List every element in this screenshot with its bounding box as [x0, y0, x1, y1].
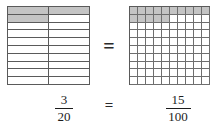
grid-cell-shaded	[49, 7, 90, 15]
grid-cell	[178, 30, 186, 38]
grid-cell	[186, 54, 194, 62]
grid-cell	[154, 46, 162, 54]
grid-cell	[186, 15, 194, 23]
grid-cell	[186, 62, 194, 70]
grid-cell-shaded	[8, 7, 49, 15]
fraction-fifteen-hundredths: 15 100	[153, 93, 203, 123]
grid-cell	[49, 77, 90, 85]
grid-cell	[138, 54, 146, 62]
grid-cell	[162, 30, 170, 38]
grid-cell	[146, 38, 154, 46]
grid-cell	[170, 23, 178, 31]
grid-cell	[49, 23, 90, 31]
grid-cell	[49, 15, 90, 23]
grid-cell	[8, 30, 49, 38]
grid-cell	[194, 15, 202, 23]
grid-cell	[170, 62, 178, 70]
grid-cell	[186, 30, 194, 38]
grid-cell	[154, 38, 162, 46]
equals-sign-fractions: =	[95, 98, 123, 113]
grid-cell-shaded	[130, 15, 138, 23]
grid-cell	[49, 69, 90, 77]
grid-cell	[178, 46, 186, 54]
grid-cell	[170, 46, 178, 54]
grid-cell	[178, 62, 186, 70]
grid-cell-shaded	[170, 7, 178, 15]
equivalent-fractions-figure: = 3 20 = 15 100	[0, 0, 221, 123]
grid-cell-shaded	[194, 7, 202, 15]
grid-cell	[130, 77, 138, 85]
grid-cell	[162, 38, 170, 46]
grid-cell	[162, 46, 170, 54]
grid-cell	[194, 38, 202, 46]
fraction-three-twentieths: 3 20	[43, 93, 85, 123]
grid-cell	[130, 54, 138, 62]
fraction-numerator: 3	[43, 93, 85, 107]
grid-cell	[178, 69, 186, 77]
grid-cell	[146, 30, 154, 38]
grid-cell	[146, 54, 154, 62]
grid-cell-shaded	[154, 15, 162, 23]
grid-cell	[186, 69, 194, 77]
grid-cell-shaded	[130, 7, 138, 15]
grid-cell-shaded	[8, 15, 49, 23]
grid-cell	[178, 77, 186, 85]
grid-cell	[49, 30, 90, 38]
grid-cell	[130, 69, 138, 77]
grid-cell	[138, 77, 146, 85]
grid-cell	[8, 38, 49, 46]
fraction-denominator: 20	[43, 110, 85, 123]
grid-cell	[202, 23, 210, 31]
grid-cell	[202, 38, 210, 46]
grid-cell	[194, 23, 202, 31]
equals-sign-models: =	[95, 36, 123, 56]
grid-cell	[202, 30, 210, 38]
grid-cell	[154, 69, 162, 77]
grid-cell	[130, 23, 138, 31]
grid-cell-shaded	[162, 7, 170, 15]
grid-cell-shaded	[146, 15, 154, 23]
grid-cell	[138, 69, 146, 77]
grid-cell-shaded	[154, 7, 162, 15]
grid-cell-shaded	[202, 7, 210, 15]
grid-cell-shaded	[186, 7, 194, 15]
grid-cell	[186, 38, 194, 46]
grid-cell	[202, 46, 210, 54]
grid-cell	[130, 30, 138, 38]
grid-cell	[146, 62, 154, 70]
grid-cell	[194, 54, 202, 62]
grid-cell-shaded	[138, 7, 146, 15]
grid-cell	[154, 30, 162, 38]
grid-cell	[8, 23, 49, 31]
grid-cell	[138, 23, 146, 31]
grid-cell	[8, 54, 49, 62]
grid-cell	[154, 23, 162, 31]
grid-cell	[194, 62, 202, 70]
grid-cell	[162, 69, 170, 77]
hundredths-grid	[129, 6, 210, 85]
grid-cell	[162, 77, 170, 85]
grid-cell	[194, 77, 202, 85]
grid-cell	[146, 69, 154, 77]
grid-cell	[202, 54, 210, 62]
grid-cell	[178, 15, 186, 23]
grid-cell-shaded	[178, 7, 186, 15]
grid-cell	[49, 38, 90, 46]
grid-cell	[202, 62, 210, 70]
grid-cell	[8, 77, 49, 85]
grid-cell	[202, 77, 210, 85]
grid-cell	[146, 46, 154, 54]
grid-cell-shaded	[138, 15, 146, 23]
grid-cell	[194, 69, 202, 77]
grid-cell	[49, 46, 90, 54]
grid-cell	[154, 54, 162, 62]
grid-cell	[178, 54, 186, 62]
grid-cell	[170, 77, 178, 85]
grid-cell	[130, 62, 138, 70]
fraction-denominator: 100	[153, 110, 203, 123]
grid-cell	[170, 38, 178, 46]
fraction-numerator: 15	[153, 93, 203, 107]
grid-cell	[146, 23, 154, 31]
grid-cell	[194, 46, 202, 54]
twentieths-grid	[7, 6, 90, 85]
